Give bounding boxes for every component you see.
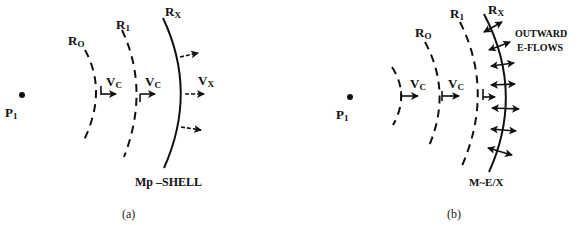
shell-rx	[484, 14, 506, 172]
label-vc1: VC	[106, 74, 122, 90]
wavefront-r1	[460, 22, 478, 168]
e-flow-arrow	[488, 148, 512, 155]
wavefront-inner	[392, 67, 401, 125]
wavefront-r0	[83, 50, 96, 142]
point-p1-dot	[19, 92, 25, 98]
e-flow-label-line1: OUTWARD	[515, 28, 567, 39]
panel-a: P1 RO R1 RX VC VC VX	[5, 4, 214, 221]
shell-label-mp: Mp –SHELL	[135, 175, 202, 189]
point-p1-label: P1	[5, 105, 18, 121]
e-flow-arrow	[491, 84, 515, 85]
point-p1-dot	[347, 94, 353, 100]
label-r0: RO	[415, 25, 431, 41]
velocity-arrow-vx-bottom	[181, 127, 201, 130]
label-vx: VX	[198, 73, 214, 89]
label-r0: RO	[68, 33, 84, 49]
velocity-arrow-vx-top	[180, 53, 198, 57]
e-flow-label-line2: E-FLOWS	[517, 42, 564, 53]
caption-a: (a)	[122, 207, 135, 221]
label-vc2: VC	[145, 74, 161, 90]
label-r1: R1	[450, 6, 464, 22]
figure: P1 RO R1 RX VC VC VX	[0, 0, 582, 225]
e-flow-arrow	[489, 42, 510, 50]
label-rx: RX	[165, 4, 181, 20]
shell-label-m-e-x: M~E/X	[469, 176, 503, 188]
label-r1: R1	[116, 17, 130, 33]
label-rx: RX	[488, 2, 504, 18]
wavefront-r0	[425, 42, 440, 146]
label-vc1: VC	[410, 76, 426, 92]
e-flow-arrow	[491, 129, 516, 131]
e-flow-arrow	[484, 22, 502, 32]
panel-b: P1 RO R1 RX VC VC	[336, 2, 567, 221]
point-p1-label: P1	[336, 107, 349, 123]
e-flow-arrow	[492, 108, 519, 109]
wavefront-r1	[122, 30, 137, 157]
label-vc2: VC	[448, 76, 464, 92]
caption-b: (b)	[447, 207, 461, 221]
shell-rx	[163, 18, 181, 168]
